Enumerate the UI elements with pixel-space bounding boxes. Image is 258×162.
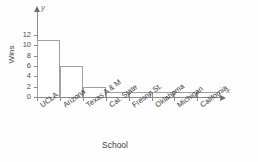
y-axis-variable-label: y — [41, 3, 45, 12]
x-tick-mark — [60, 97, 61, 101]
y-tick-label: 0 — [15, 93, 31, 101]
y-axis-arrow-icon — [34, 6, 40, 12]
x-tick-mark — [174, 97, 175, 101]
x-tick-mark — [37, 97, 38, 101]
y-tick-label: 6 — [15, 62, 31, 70]
y-tick-label: 12 — [15, 31, 31, 39]
x-tick-mark — [197, 97, 198, 101]
x-tick-mark — [220, 97, 221, 101]
x-axis-title: School — [0, 140, 230, 150]
x-tick-mark — [152, 97, 153, 101]
plot-area: y x 024681012 UCLAArizonaTexas A & MCal.… — [0, 0, 258, 162]
y-tick-label: 2 — [15, 83, 31, 91]
bar-chart: y x 024681012 UCLAArizonaTexas A & MCal.… — [0, 0, 258, 162]
x-tick-mark — [129, 97, 130, 101]
y-tick-label: 8 — [15, 52, 31, 60]
x-tick-mark — [106, 97, 107, 101]
y-tick-mark — [34, 35, 38, 36]
y-tick-label: 4 — [15, 72, 31, 80]
y-axis-title: Wins — [7, 35, 16, 75]
y-tick-label: 10 — [15, 41, 31, 49]
x-tick-mark — [83, 97, 84, 101]
bar — [37, 40, 60, 97]
